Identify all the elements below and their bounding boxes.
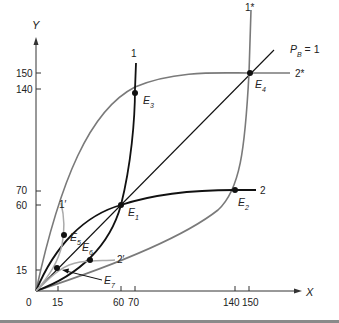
label-e1: E1 xyxy=(128,206,139,221)
axes: 15 60 70 140 150 0 15 60 70 140 150 Y X xyxy=(16,19,314,308)
label-e6: E6 xyxy=(82,241,93,256)
point-e6 xyxy=(87,257,93,263)
x-tick-label-140: 140 xyxy=(223,297,240,308)
curve-label-2-star: 2* xyxy=(295,68,305,79)
y-tick-label-15: 15 xyxy=(16,265,28,276)
offer-curve-diagram: 15 60 70 140 150 0 15 60 70 140 150 Y X … xyxy=(0,0,339,323)
offer-curve-2-star xyxy=(36,73,290,291)
y-tick-label-60: 60 xyxy=(16,200,28,211)
curve-label-1-star: 1* xyxy=(245,2,255,13)
point-e3 xyxy=(132,90,138,96)
y-axis-arrow-icon xyxy=(34,37,39,45)
y-tick-label-150: 150 xyxy=(16,68,33,79)
origin-label: 0 xyxy=(26,297,32,308)
y-tick-label-70: 70 xyxy=(16,185,28,196)
x-tick-label-60: 60 xyxy=(113,297,125,308)
x-tick-label-15: 15 xyxy=(52,297,64,308)
x-tick-label-150: 150 xyxy=(242,297,259,308)
point-e5 xyxy=(61,232,67,238)
curve-label-2: 2 xyxy=(260,185,266,196)
point-e2 xyxy=(232,187,238,193)
x-axis-arrow-icon xyxy=(294,289,302,294)
y-axis-title: Y xyxy=(32,19,40,31)
e7-pointer-arrow-icon xyxy=(62,269,69,274)
offer-curve-1-star xyxy=(36,10,251,291)
y-tick-label-140: 140 xyxy=(16,84,33,95)
curve-label-1-prime: 1′ xyxy=(59,199,67,210)
point-e7 xyxy=(54,265,60,271)
point-e1 xyxy=(118,202,124,208)
label-e7: E7 xyxy=(104,274,116,289)
x-tick-label-70: 70 xyxy=(128,297,140,308)
label-e4: E4 xyxy=(255,78,266,93)
curve-label-1: 1 xyxy=(131,48,137,59)
label-e5: E5 xyxy=(70,231,81,246)
x-axis-title: X xyxy=(305,286,314,298)
price-line-label: PB = 1 xyxy=(290,43,320,58)
label-e2: E2 xyxy=(238,196,249,211)
point-e4 xyxy=(247,70,253,76)
curve-label-2-prime: 2′ xyxy=(117,254,125,265)
label-e3: E3 xyxy=(143,94,154,109)
